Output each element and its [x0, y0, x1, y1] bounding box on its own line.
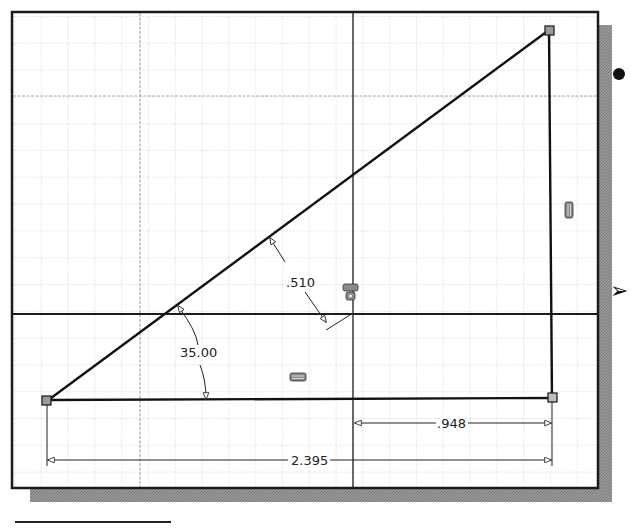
- endpoint-bottom-right[interactable]: [548, 393, 557, 402]
- vertical-constraint-icon[interactable]: [565, 202, 573, 218]
- sketch-grid: [12, 12, 598, 488]
- side-arrow-marker: ➢: [610, 280, 628, 302]
- dimension-angle-label[interactable]: 35.00: [180, 345, 217, 360]
- endpoint-left[interactable]: [42, 396, 51, 405]
- dimension-partial-width-label[interactable]: .948: [437, 416, 466, 431]
- horizontal-constraint-icon[interactable]: [290, 373, 306, 381]
- dimension-offset-label[interactable]: .510: [286, 275, 315, 290]
- dimension-total-width-label[interactable]: 2.395: [291, 453, 328, 468]
- endpoint-top-right[interactable]: [545, 26, 554, 35]
- bottom-rule-line: [15, 521, 171, 523]
- sketch-canvas[interactable]: 2.395 .948 35.00 .510: [0, 0, 631, 529]
- side-bullet-marker: [613, 68, 625, 80]
